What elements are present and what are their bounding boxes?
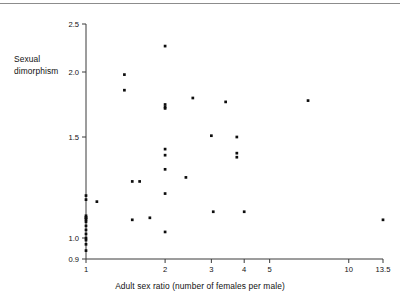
data-point	[164, 154, 167, 157]
x-tick-label: 10	[345, 265, 353, 274]
data-point	[164, 107, 167, 110]
data-point	[85, 220, 88, 223]
y-tick-label: 2.0	[68, 68, 79, 77]
data-point	[123, 73, 126, 76]
data-point	[85, 229, 88, 232]
scatter-plot: 0.91.01.52.02.5123451013.5	[0, 0, 400, 305]
data-point	[85, 194, 88, 197]
data-point	[85, 243, 88, 246]
data-point	[85, 233, 88, 236]
data-point	[164, 148, 167, 151]
data-point	[191, 97, 194, 100]
y-tick-label: 2.5	[68, 20, 79, 29]
data-point	[212, 210, 215, 213]
x-tick-label: 5	[268, 265, 272, 274]
data-point	[164, 168, 167, 171]
figure-container: Sexual dimorphism 0.91.01.52.02.51234510…	[0, 0, 400, 305]
data-point	[235, 136, 238, 139]
x-tick-label: 13.5	[376, 265, 391, 274]
data-point	[164, 231, 167, 234]
y-tick-label: 0.9	[68, 255, 79, 264]
data-point	[123, 89, 126, 92]
data-point	[307, 99, 310, 102]
data-point	[210, 134, 213, 137]
data-point	[164, 45, 167, 48]
x-axis-title: Adult sex ratio (number of females per m…	[0, 281, 400, 291]
data-point	[224, 101, 227, 104]
data-point	[96, 200, 99, 203]
data-point	[235, 156, 238, 159]
data-point	[185, 176, 188, 179]
data-point	[85, 239, 88, 242]
data-point	[85, 198, 88, 201]
tick-labels-group: 0.91.01.52.02.5123451013.5	[68, 20, 390, 274]
data-point	[164, 103, 167, 106]
x-tick-label: 1	[84, 265, 88, 274]
data-point	[164, 192, 167, 195]
data-point	[85, 249, 88, 252]
y-tick-label: 1.0	[68, 234, 79, 243]
data-point	[243, 210, 246, 213]
data-point	[85, 225, 88, 228]
data-point	[138, 180, 141, 183]
axes-group	[86, 24, 383, 259]
data-point	[382, 218, 385, 221]
data-point	[235, 152, 238, 155]
y-tick-label: 1.5	[68, 133, 79, 142]
tick-marks-group	[82, 24, 383, 263]
data-point	[149, 216, 152, 219]
x-tick-label: 3	[209, 265, 213, 274]
x-tick-label: 4	[242, 265, 246, 274]
data-point	[131, 218, 134, 221]
data-point	[131, 180, 134, 183]
x-tick-label: 2	[163, 265, 167, 274]
data-points-group	[85, 45, 385, 252]
